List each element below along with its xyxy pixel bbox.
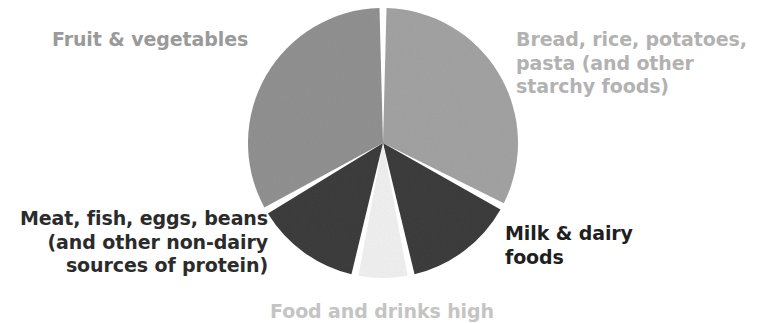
- slice-label-food-drinks-high: Food and drinks high: [252, 300, 512, 323]
- slice-label-milk-dairy-foods: Milk & dairy foods: [505, 222, 715, 269]
- slice-label-meat-fish-eggs-beans: Meat, fish, eggs, beans (and other non-d…: [0, 207, 268, 278]
- slice-label-fruit-vegetables: Fruit & vegetables: [52, 28, 268, 52]
- pie-chart-figure: Fruit & vegetables Bread, rice, potatoes…: [0, 0, 763, 323]
- slice-label-bread-rice-potatoes-pasta: Bread, rice, potatoes, pasta (and other …: [516, 28, 762, 99]
